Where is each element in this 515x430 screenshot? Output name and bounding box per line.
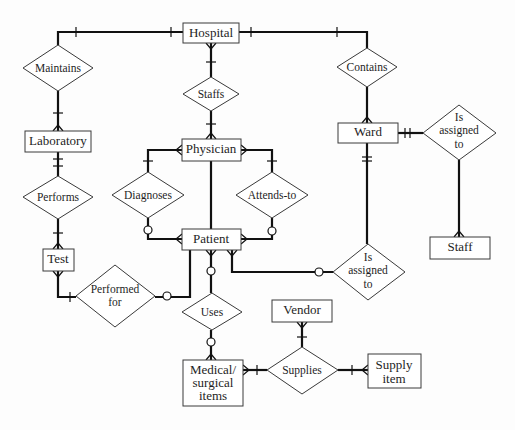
line-diagnoses-patient [148,218,182,239]
entity-label: item [382,371,405,386]
relationship-performed-for[interactable]: Performed for [76,265,155,327]
relationship-label: assigned [348,264,388,277]
relationship-performs[interactable]: Performs [23,176,93,219]
entity-test[interactable]: Test [43,249,74,271]
relationship-attends-to[interactable]: Attends-to [236,172,308,218]
relationship-ward-is-assigned-to[interactable]: Is assigned to [423,105,496,160]
relationship-label: Performs [37,191,80,203]
entity-supply-item[interactable]: Supply item [368,354,421,388]
relationship-label: assigned [439,124,479,137]
relationship-label: Attends-to [248,189,297,201]
line-performedfor-patient [155,250,190,297]
entity-label: Ward [354,124,382,139]
relationship-supplies[interactable]: Supplies [267,347,338,394]
line-attends-patient [241,218,272,239]
entity-label: Supply [376,357,413,372]
entity-physician[interactable]: Physician [182,139,241,161]
relationship-contains[interactable]: Contains [337,48,397,87]
relationship-label: Diagnoses [124,189,172,202]
relationship-label: Is [455,111,464,123]
relationship-patient-is-assigned-to[interactable]: Is assigned to [333,244,405,300]
entity-ward[interactable]: Ward [338,123,398,143]
relationship-label: for [108,296,122,308]
relationship-label: to [364,278,373,290]
line-physician-diagnoses [148,150,182,172]
relationship-label: Performed [91,283,140,295]
entity-staff[interactable]: Staff [430,237,490,259]
relationship-label: Uses [201,306,224,318]
entity-label: Laboratory [29,133,87,148]
er-diagram: Hospital Laboratory Physician Ward Patie… [0,0,515,430]
entity-label: Staff [447,239,473,254]
entity-label: Hospital [189,25,233,40]
relationship-label: to [455,138,464,150]
relationship-diagnoses[interactable]: Diagnoses [112,172,184,218]
diagram-svg: Hospital Laboratory Physician Ward Patie… [0,0,515,430]
entity-label: Patient [193,231,229,246]
entity-laboratory[interactable]: Laboratory [25,131,91,152]
relationship-label: Staffs [198,88,225,100]
relationship-uses[interactable]: Uses [182,293,242,330]
relationship-label: Supplies [282,364,322,377]
relationship-maintains[interactable]: Maintains [23,45,93,91]
entity-patient[interactable]: Patient [182,229,241,250]
entity-medical-surgical-items[interactable]: Medical/ surgical items [183,360,243,406]
line-test-performedfor [58,271,76,297]
entity-label: Physician [186,141,237,156]
entity-label: Vendor [283,302,321,317]
entity-label: items [199,388,227,403]
relationship-label: Maintains [35,62,82,74]
entity-hospital[interactable]: Hospital [183,23,239,43]
line-hospital-contains [239,32,367,48]
relationship-staffs[interactable]: Staffs [183,77,239,111]
relationship-label: Is [364,251,373,263]
line-hospital-maintains [58,32,183,45]
entity-vendor[interactable]: Vendor [272,300,332,322]
relationship-label: Contains [347,61,388,73]
entity-label: Test [47,251,69,266]
